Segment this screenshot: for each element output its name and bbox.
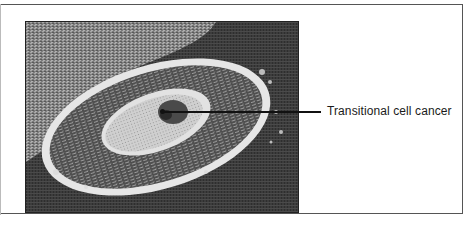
annotation-leader-line [163, 111, 321, 113]
figure-frame-left-edge [0, 4, 1, 215]
annotation-label: Transitional cell cancer [327, 104, 452, 118]
tumor-photomicrograph [25, 21, 299, 213]
